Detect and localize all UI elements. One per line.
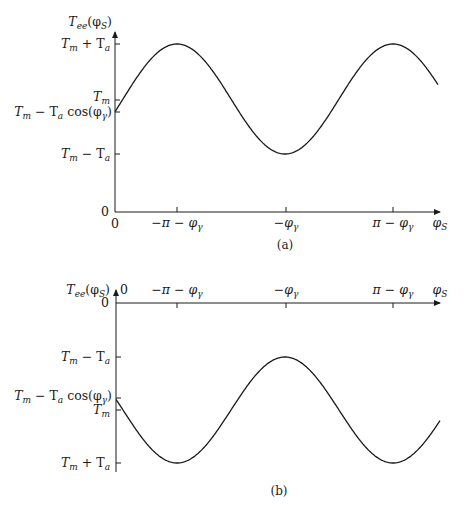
- ylabel-tm-plus-ta: Tm + Ta: [61, 36, 110, 53]
- ylabel-tm-plus-ta: Tm + Ta: [61, 455, 110, 472]
- ylabel-zero: 0: [101, 204, 109, 219]
- ylabel-tm-minus-ta-cos: Tm − Ta cos(φγ): [14, 104, 112, 121]
- xtick-label-neg-phi: −φγ: [274, 215, 299, 232]
- xtick-label-neg-pi: −π − φγ: [151, 215, 203, 232]
- origin-label-top: 0: [120, 282, 128, 297]
- ylabel-zero: 0: [101, 295, 109, 310]
- x-axis-label: φS: [433, 215, 448, 232]
- ylabel-tm-minus-ta: Tm − Ta: [61, 146, 110, 163]
- torque-curve-b: [116, 357, 440, 463]
- xtick-label-neg-phi: −φγ: [274, 282, 299, 299]
- xtick-label-pi: π − φγ: [372, 215, 414, 232]
- ylabel-tm-minus-ta: Tm − Ta: [61, 349, 110, 366]
- figure: Tee(φS) Tm + Ta Tm Tm − Ta cos(φγ) Tm − …: [0, 0, 465, 510]
- caption-b: (b): [270, 484, 287, 498]
- panel-b: Tee(φS) 0 0 Tm − Ta Tm − Ta cos(φγ) Tm T…: [14, 282, 447, 498]
- panel-a: Tee(φS) Tm + Ta Tm Tm − Ta cos(φγ) Tm − …: [14, 14, 447, 252]
- x-axis-label: φS: [433, 282, 448, 299]
- xtick-label-pi: π − φγ: [372, 282, 414, 299]
- xtick-label-neg-pi: −π − φγ: [151, 282, 203, 299]
- y-axis-label: Tee(φS): [68, 14, 112, 31]
- xlabel-zero: 0: [111, 216, 119, 231]
- torque-curve-a: [115, 44, 438, 154]
- caption-a: (a): [277, 238, 294, 252]
